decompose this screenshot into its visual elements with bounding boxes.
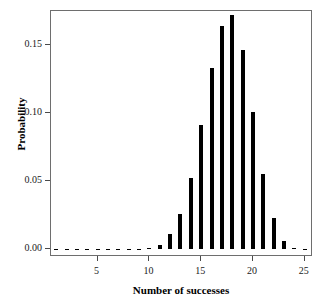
bar: [75, 249, 79, 250]
bar: [106, 249, 110, 250]
x-axis-title: Number of successes: [50, 284, 312, 296]
x-tick-label: 15: [185, 265, 215, 276]
bar: [303, 249, 307, 250]
bar: [210, 68, 214, 249]
y-tick-label: 0.10: [2, 107, 42, 117]
bar: [199, 125, 203, 249]
bar: [272, 218, 276, 249]
bar: [147, 248, 151, 249]
bar: [158, 245, 162, 249]
y-axis-title: Probability: [15, 69, 27, 179]
x-tick-mark: [148, 256, 149, 261]
bar: [85, 249, 89, 250]
bar: [220, 26, 224, 249]
bar: [54, 249, 58, 250]
bar: [96, 249, 100, 250]
binomial-probability-chart: Probability 0.000.050.100.15 510152025 N…: [0, 0, 323, 302]
y-tick-label: 0.05: [2, 175, 42, 185]
bar: [127, 249, 131, 250]
bar: [251, 112, 255, 249]
x-tick-label: 20: [237, 265, 267, 276]
bar: [282, 241, 286, 249]
bar: [137, 249, 141, 250]
bar: [116, 249, 120, 250]
bar: [189, 178, 193, 249]
x-tick-mark: [97, 256, 98, 261]
bar: [292, 248, 296, 249]
bar: [65, 249, 69, 250]
x-tick-label: 10: [133, 265, 163, 276]
bar: [241, 50, 245, 249]
x-tick-mark: [304, 256, 305, 261]
bar: [230, 15, 234, 249]
plot-area: [50, 10, 312, 256]
x-tick-label: 5: [82, 265, 112, 276]
bar: [261, 174, 265, 249]
bar: [168, 234, 172, 249]
x-tick-mark: [200, 256, 201, 261]
bar: [178, 214, 182, 249]
y-tick-label: 0.00: [2, 243, 42, 253]
x-tick-label: 25: [289, 265, 319, 276]
x-tick-mark: [252, 256, 253, 261]
y-tick-label: 0.15: [2, 39, 42, 49]
